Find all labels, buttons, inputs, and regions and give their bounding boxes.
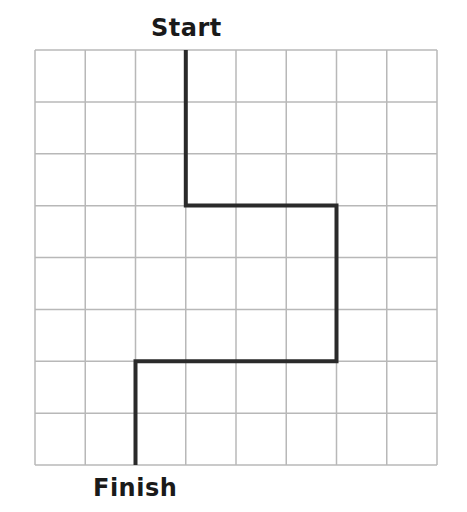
grid-lines bbox=[35, 50, 437, 465]
grid-diagram bbox=[0, 0, 467, 512]
